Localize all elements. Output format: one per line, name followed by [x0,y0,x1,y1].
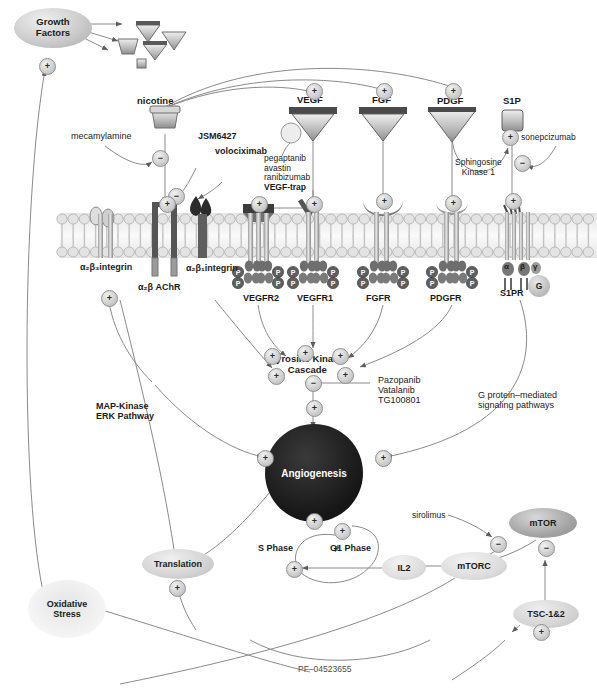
sign-angiogenesis-to-cellcycle: + [306,513,323,530]
mapk-line: MAP-Kinase [96,401,154,411]
drug-label-vegf-blockers: pegaptanib avastin ranibizumab VEGF-trap [264,154,310,192]
sign-cellcycle-activate: + [334,523,351,540]
svg-text:P: P [361,269,366,276]
tki-line: Pazopanib [378,375,421,385]
receptor-label-integrin-a2b3: α₂β₃integrin [80,262,132,272]
sign-tk-inhibitors: − [305,375,322,392]
pathway-label-g-protein-signaling: G protein–mediated signaling pathways [478,390,557,410]
svg-text:P: P [291,280,296,287]
svg-text:P: P [430,269,435,276]
free-ligand-shapes [118,21,186,68]
sign-fgfr-activate: + [376,193,393,210]
sign-translation-activate: + [169,580,186,597]
gp-line: G protein–mediated [478,390,557,400]
subunit-label-beta: β [520,263,525,272]
node-growth-factors-label: GrowthFactors [36,17,70,39]
fgf-ligand-shape [359,107,407,141]
sign-mapk-to-angiogenesis: + [257,450,274,467]
svg-text:P: P [331,280,336,287]
receptor-label-pdgfr: PDGFR [430,293,462,303]
svg-text:P: P [401,280,406,287]
sign-gprotein-to-angiogenesis: + [375,450,392,467]
pathway-label-map-kinase-erk: MAP-Kinase ERK Pathway [96,401,154,421]
s1p-ligand-shape [502,110,523,131]
nicotine-ligand-shape [150,106,180,128]
sign-integrin-map-activate: + [101,290,118,307]
sign-achr-activate: + [159,196,176,213]
receptor-label-integrin-a2b1: α₂β₁integrin [186,263,238,273]
subunit-label-alpha: α [504,263,509,272]
cellcycle-label-s-phase: S Phase [258,543,293,553]
pathway-diagram: PPPPPPPPPPPPPPPP nicotine VEGF FGF PDGF … [0,0,597,691]
svg-text:P: P [470,269,475,276]
tki-line: TG100801 [378,395,421,405]
svg-text:P: P [276,269,281,276]
node-angiogenesis: Angiogenesis [265,424,363,522]
sign-pdgfr-activate: + [445,195,462,212]
vegf-blocker-line: VEGF-trap [264,183,310,193]
pathway-label-sphingosine-kinase: Sphingosine Kinase 1 [455,158,502,177]
mapk-line: ERK Pathway [96,411,154,421]
receptor-label-vegfr2: VEGFR2 [243,293,279,303]
node-mtorc: mTORC [441,552,507,580]
drug-label-mecamylamine: mecamylamine [71,131,132,141]
drug-label-volociximab: volociximab [215,146,267,156]
sign-angiogenesis-activate: + [306,400,323,417]
svg-text:P: P [236,280,241,287]
sign-fgf-activate: + [376,83,393,100]
sign-il2-to-cellcycle: + [286,561,303,578]
sk-line: Kinase 1 [455,168,502,178]
sign-pdgf-activate: + [445,83,462,100]
node-tsc: TSC-1&2 [513,600,579,628]
receptor-label-achr: α₂β AChR [138,282,181,292]
sign-tk-in-4: + [268,368,285,385]
subunit-label-gamma: γ [533,263,537,272]
sign-vegfr2-activate: + [251,196,268,213]
node-growth-factors: GrowthFactors [14,8,92,48]
sign-vegfr1-activate: + [306,196,323,213]
tki-line: Vatalanib [378,385,421,395]
sign-growth-factors-activate: + [39,58,56,75]
receptor-label-vegfr1: VEGFR1 [297,293,333,303]
gp-line: signaling pathways [478,400,557,410]
sign-tk-in-3: + [332,348,349,365]
node-mtor: mTOR [509,508,577,538]
sign-sirolimus-inhibit: − [490,536,507,553]
sign-vegf-activate: + [306,83,323,100]
receptor-label-fgfr: FGFR [366,293,391,303]
node-translation: Translation [142,549,214,579]
sign-s1p-kinase-activate: + [502,129,519,146]
ligand-label-nicotine: nicotine [137,96,173,107]
drug-label-sirolimus: sirolimus [412,511,446,521]
cellcycle-label-g1-phase: G1 Phase [330,543,371,553]
drug-label-sonepcizumab: sonepcizumab [521,133,576,143]
node-il2: IL2 [382,555,426,580]
sign-tk-in-1: + [264,348,281,365]
sign-mtor-inhibit: − [538,540,555,557]
sign-tk-in-2: + [297,345,314,362]
sign-mecamylamine-inhibit: − [152,150,169,167]
svg-text:P: P [276,280,281,287]
svg-text:P: P [361,280,366,287]
sign-tk-in-5: + [337,367,354,384]
sign-sonepcizumab-inhibit: − [514,155,531,172]
svg-text:P: P [470,280,475,287]
ligand-label-s1p: S1P [503,96,521,107]
footnote-label: PF–04523655 [298,665,351,675]
sign-tsc-activate: + [533,624,550,641]
svg-text:P: P [331,269,336,276]
pdgf-ligand-shape [428,107,476,142]
svg-text:P: P [401,269,406,276]
svg-text:P: P [291,269,296,276]
node-oxidative-stress-label: OxidativeStress [47,599,88,620]
svg-text:P: P [430,280,435,287]
receptor-label-s1pr: S1PR [500,288,524,298]
sign-s1pr-activate: + [505,193,522,210]
vegf-ligand-shape [281,107,337,143]
node-oxidative-stress: OxidativeStress [28,580,106,638]
drug-label-jsm6427: JSM6427 [198,131,237,141]
drug-label-tk-inhibitors: Pazopanib Vatalanib TG100801 [378,375,421,405]
node-g-protein: G [528,275,550,297]
